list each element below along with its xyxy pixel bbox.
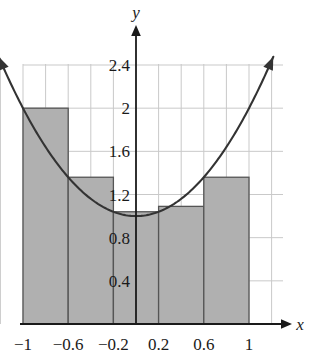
x-tick-label: 0.6 bbox=[193, 335, 214, 354]
y-tick-label: 1.6 bbox=[109, 142, 130, 161]
x-tick-label: −1 bbox=[14, 335, 32, 354]
x-tick-label: −0.2 bbox=[98, 335, 129, 354]
x-tick-label: −0.6 bbox=[53, 335, 84, 354]
plot-canvas: y x −1−0.6−0.20.20.61 0.40.81.21.622.4 bbox=[0, 0, 316, 363]
x-axis-label: x bbox=[295, 315, 304, 334]
x-tick-label: 0.2 bbox=[148, 335, 169, 354]
y-axis-label: y bbox=[130, 3, 140, 22]
y-tick-label: 2 bbox=[122, 99, 131, 118]
riemann-rectangle bbox=[159, 206, 204, 324]
y-tick-label: 1.2 bbox=[109, 186, 130, 205]
riemann-sum-figure: y x −1−0.6−0.20.20.61 0.40.81.21.622.4 bbox=[0, 0, 316, 363]
riemann-rectangle bbox=[204, 177, 249, 324]
y-tick-label: 2.4 bbox=[109, 56, 131, 75]
x-tick-label: 1 bbox=[245, 335, 254, 354]
riemann-rectangle bbox=[23, 108, 68, 324]
y-tick-label: 0.4 bbox=[109, 272, 131, 291]
y-tick-label: 0.8 bbox=[109, 229, 130, 248]
